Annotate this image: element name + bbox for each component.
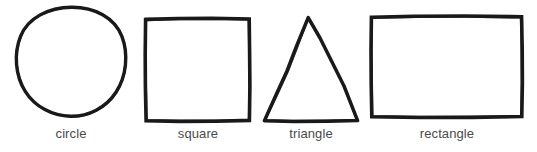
shape-label-square: square bbox=[138, 127, 258, 141]
shapes-poster: circle square triangle rectangle bbox=[0, 0, 537, 152]
shape-label-rectangle: rectangle bbox=[364, 127, 530, 141]
shape-label-triangle: triangle bbox=[258, 127, 364, 141]
shape-label-circle: circle bbox=[8, 127, 134, 141]
